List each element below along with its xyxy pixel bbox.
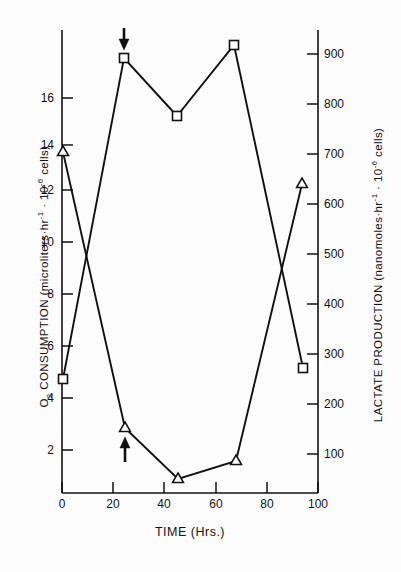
- right-axis-title-main: LACTATE PRODUCTION (nanomoles: [372, 217, 384, 422]
- left-axis-title-hr: hr: [38, 219, 50, 230]
- left-axis-title-o: O: [38, 398, 50, 407]
- left-axis-title-exp1: -1: [36, 211, 45, 219]
- series-line-o2: [63, 152, 302, 479]
- x-tick-label-80: 80: [247, 497, 287, 511]
- left-axis-title-ten: 10: [38, 186, 50, 200]
- x-tick-label-0: 0: [42, 497, 82, 511]
- left-axis-title-suffix: cells): [38, 146, 50, 179]
- left-tick-label-2: 2: [20, 443, 54, 457]
- right-axis-title-suffix: cells): [372, 128, 384, 161]
- right-tick-label-500: 500: [324, 247, 364, 261]
- right-tick-label-800: 800: [324, 97, 364, 111]
- right-axis-title: LACTATE PRODUCTION (nanomoles·hr-1 · 10-…: [370, 110, 384, 440]
- x-tick-label-60: 60: [196, 497, 236, 511]
- left-axis-title: O2 CONSUMPTION (microliters·hr-1 · 10-6 …: [36, 112, 53, 442]
- right-tick-label-700: 700: [324, 147, 364, 161]
- arrow-down-icon: [119, 28, 129, 50]
- figure-container: 2 4 6 8 10 12 14 16 100 200 300 400 500 …: [0, 0, 401, 572]
- left-tick-label-16: 16: [20, 91, 54, 105]
- left-axis-title-exp2: -6: [36, 178, 45, 186]
- x-tick-label-20: 20: [93, 497, 133, 511]
- right-axis-title-hr: hr: [372, 201, 384, 212]
- right-tick-label-300: 300: [324, 347, 364, 361]
- right-axis-title-exp2: -6: [370, 161, 379, 169]
- right-axis-ticks: [307, 54, 318, 454]
- x-tick-label-40: 40: [144, 497, 184, 511]
- left-axis-title-main: CONSUMPTION (microliters: [38, 235, 50, 394]
- arrow-up-icon: [120, 437, 130, 462]
- right-axis-title-exp1: -1: [370, 193, 379, 201]
- right-tick-label-100: 100: [324, 447, 364, 461]
- right-tick-label-200: 200: [324, 397, 364, 411]
- right-tick-label-600: 600: [324, 197, 364, 211]
- right-tick-label-900: 900: [324, 47, 364, 61]
- x-tick-label-100: 100: [298, 497, 338, 511]
- chart-plot-area: [0, 0, 401, 572]
- right-axis-title-ten: 10: [372, 168, 384, 182]
- left-axis-title-subscript: 2: [45, 393, 54, 398]
- right-tick-label-400: 400: [324, 297, 364, 311]
- x-axis-ticks: [62, 482, 318, 493]
- x-axis-title: TIME (Hrs.): [62, 525, 318, 539]
